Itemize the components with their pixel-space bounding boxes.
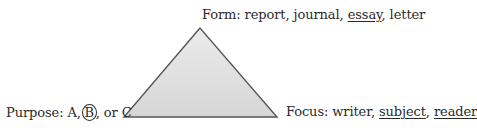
focus-vertex-label: Focus: writer, subject, reader (286, 104, 477, 120)
triangle-shape (124, 28, 277, 117)
focus-option-reader-selected: reader (434, 104, 477, 119)
focus-option-subject-selected: subject (379, 104, 426, 119)
purpose-option-b-circled: B (82, 104, 97, 121)
form-label-text: Form: report, journal, (202, 7, 348, 22)
focus-label-text: Focus: writer, (286, 104, 379, 119)
purpose-vertex-label: Purpose: A,B, or C (6, 104, 132, 121)
focus-separator: , (426, 104, 434, 119)
form-vertex-label: Form: report, journal, essay, letter (202, 7, 425, 23)
purpose-label-text: Purpose: A, (6, 105, 81, 120)
purpose-label-suffix: , or C (96, 105, 132, 120)
form-option-essay-selected: essay (348, 7, 382, 22)
form-label-suffix: , letter (382, 7, 426, 22)
